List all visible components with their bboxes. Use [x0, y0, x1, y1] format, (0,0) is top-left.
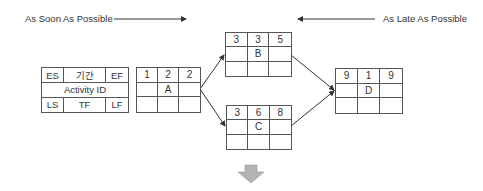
- node-d-id: D: [358, 84, 380, 99]
- edge-b-d: [291, 55, 334, 90]
- node-a-id: A: [158, 83, 179, 98]
- node-c-duration: 6: [248, 106, 269, 120]
- node-d-duration: 1: [358, 69, 380, 84]
- node-b-blank-left: [226, 47, 248, 61]
- node-b-es: 3: [226, 33, 248, 47]
- node-b-id: B: [248, 47, 270, 61]
- legend-tf: TF: [64, 98, 106, 113]
- node-a-duration: 2: [158, 68, 179, 83]
- node-c-id: C: [248, 120, 269, 134]
- node-d-lf: [380, 98, 402, 113]
- legend-duration: 기간: [64, 68, 106, 83]
- edge-a-b: [200, 55, 224, 89]
- node-a-lf: [179, 97, 200, 112]
- node-d-blank-left: [336, 84, 358, 99]
- node-d-blank-right: [380, 84, 402, 99]
- node-c-es: 3: [227, 106, 248, 120]
- node-c-tf: [248, 135, 269, 149]
- node-c-blank-left: [227, 120, 248, 134]
- edge-a-c: [200, 89, 225, 126]
- down-arrow-icon: [238, 165, 264, 183]
- node-a-ef: 2: [179, 68, 200, 83]
- legend-lf: LF: [106, 98, 128, 113]
- node-b-lf: [269, 62, 291, 76]
- node-a-blank-right: [179, 83, 200, 98]
- node-b-tf: [248, 62, 270, 76]
- node-c-ls: [227, 135, 248, 149]
- edge-c-d: [291, 91, 334, 126]
- node-b-duration: 3: [248, 33, 270, 47]
- legend-es: ES: [42, 68, 64, 83]
- legend-activity-id: Activity ID: [42, 83, 128, 98]
- activity-node-c: 3 6 8 C: [226, 105, 292, 150]
- activity-node-d: 9 1 9 D: [335, 68, 403, 114]
- node-c-blank-right: [270, 120, 291, 134]
- legend-ef: EF: [106, 68, 128, 83]
- node-d-es: 9: [336, 69, 358, 84]
- node-b-blank-right: [269, 47, 291, 61]
- node-d-ef: 9: [380, 69, 402, 84]
- node-c-lf: [270, 135, 291, 149]
- activity-node-b: 3 3 5 B: [225, 32, 292, 77]
- node-d-tf: [358, 98, 380, 113]
- node-a-tf: [158, 97, 179, 112]
- node-b-ef: 5: [269, 33, 291, 47]
- node-b-ls: [226, 62, 248, 76]
- legend-ls: LS: [42, 98, 64, 113]
- activity-node-a: 1 2 2 A: [136, 67, 201, 113]
- legend-node: ES 기간 EF Activity ID LS TF LF: [41, 67, 129, 113]
- node-d-ls: [336, 98, 358, 113]
- node-a-ls: [137, 97, 158, 112]
- node-a-blank-left: [137, 83, 158, 98]
- node-c-ef: 8: [270, 106, 291, 120]
- node-a-es: 1: [137, 68, 158, 83]
